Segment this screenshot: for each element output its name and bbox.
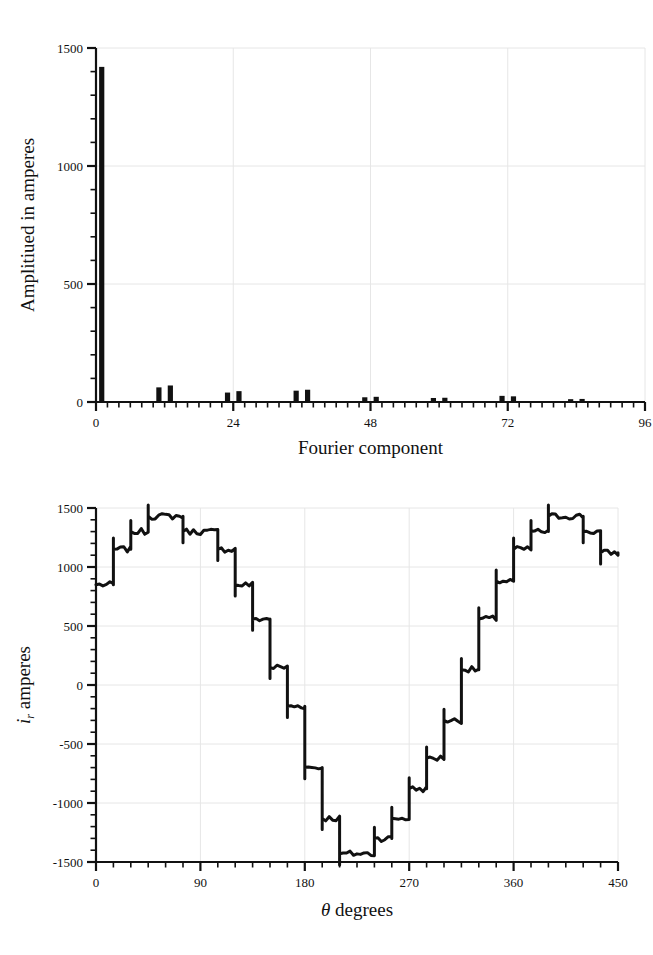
spectrum-bar <box>236 391 241 402</box>
spectrum-bar <box>294 391 299 402</box>
y-axis-ticks: -1500-1000-500050010001500 <box>53 501 96 870</box>
x-axis-ticks: 090180270360450 <box>93 862 628 890</box>
y-tick-label: 1500 <box>57 41 83 56</box>
y-tick-label: 1000 <box>57 159 83 174</box>
spectrum-bar <box>431 398 436 402</box>
current-waveform-plot: -1500-1000-50005001000150009018027036045… <box>0 470 653 955</box>
x-axis-label: θ degrees <box>321 899 393 920</box>
x-tick-label: 48 <box>364 415 377 430</box>
x-tick-label: 96 <box>639 415 653 430</box>
x-tick-label: 90 <box>194 875 207 890</box>
y-tick-label: -1500 <box>53 855 83 870</box>
x-tick-label: 24 <box>227 415 241 430</box>
fourier-spectrum-plot: 050010001500024487296Fourier componentAm… <box>0 0 653 470</box>
spectrum-bar <box>156 387 161 402</box>
y-tick-label: -500 <box>59 737 83 752</box>
y-axis-ticks: 050010001500 <box>57 41 96 410</box>
spectrum-bar <box>305 390 310 402</box>
spectrum-bar <box>99 67 104 402</box>
x-tick-label: 72 <box>501 415 514 430</box>
x-tick-label: 0 <box>93 415 100 430</box>
y-tick-label: 500 <box>64 619 84 634</box>
bar-series <box>99 67 585 402</box>
y-axis-label: Amplitiued in amperes <box>17 138 38 312</box>
y-tick-label: 1500 <box>57 501 83 516</box>
spectrum-bar <box>442 398 447 402</box>
current-waveform-panel: -1500-1000-50005001000150009018027036045… <box>0 470 653 955</box>
x-tick-label: 0 <box>93 875 100 890</box>
spectrum-bar <box>499 396 504 402</box>
fourier-spectrum-panel: 050010001500024487296Fourier componentAm… <box>0 0 653 470</box>
x-tick-label: 360 <box>504 875 524 890</box>
spectrum-bar <box>225 393 230 402</box>
y-tick-label: 500 <box>64 277 84 292</box>
y-tick-label: 1000 <box>57 560 83 575</box>
spectrum-bar <box>374 397 379 402</box>
spectrum-bar <box>168 385 173 402</box>
y-tick-label: -1000 <box>53 796 83 811</box>
spectrum-bar <box>362 397 367 402</box>
figure-container: 050010001500024487296Fourier componentAm… <box>0 0 653 955</box>
grid-lines <box>96 48 645 402</box>
y-tick-label: 0 <box>77 678 84 693</box>
x-axis-ticks: 024487296 <box>93 402 652 430</box>
spectrum-bar <box>511 396 516 402</box>
x-tick-label: 450 <box>608 875 628 890</box>
spectrum-bar <box>568 399 573 402</box>
y-axis-label: ir amperes <box>13 646 37 724</box>
spectrum-bar <box>579 399 584 402</box>
x-tick-label: 270 <box>399 875 419 890</box>
y-tick-label: 0 <box>77 395 84 410</box>
grid-lines <box>96 508 618 862</box>
x-tick-label: 180 <box>295 875 315 890</box>
x-axis-label: Fourier component <box>298 437 444 458</box>
